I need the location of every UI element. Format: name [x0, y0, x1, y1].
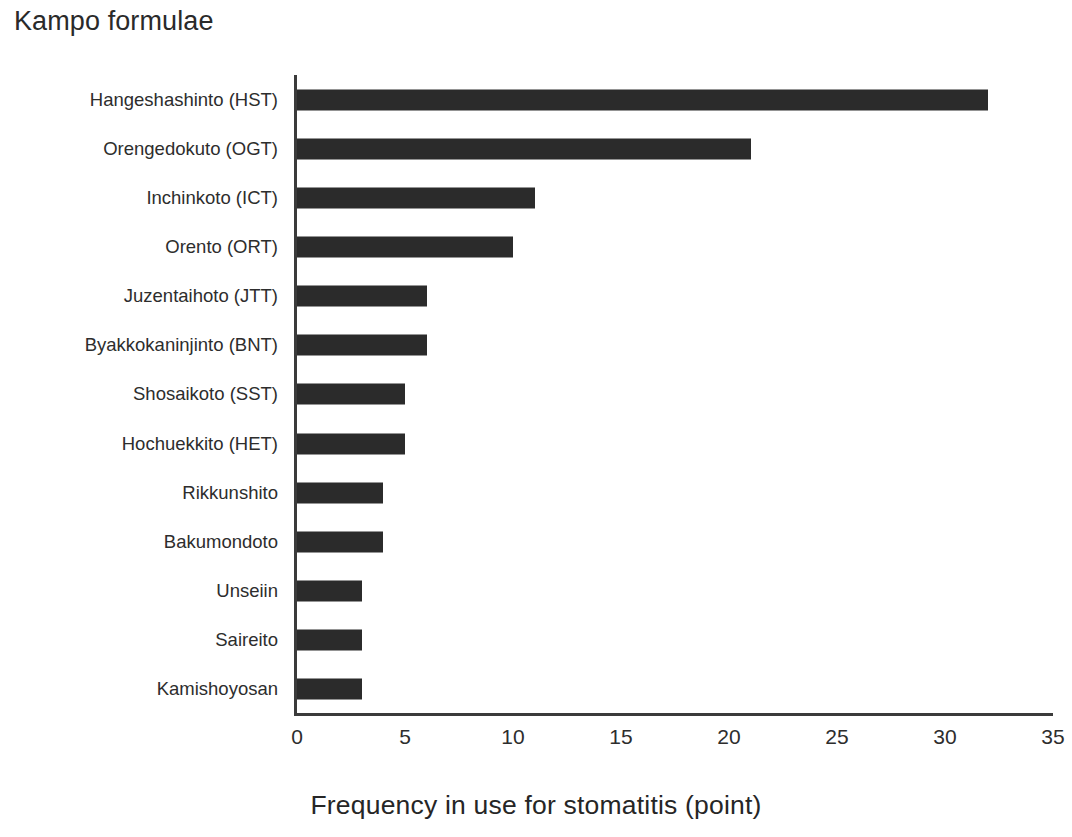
bar-row: Hochuekkito (HET) — [0, 419, 1072, 468]
bar-row: Shosaikoto (SST) — [0, 370, 1072, 419]
x-tick-label: 15 — [609, 725, 632, 749]
x-tick-label: 35 — [1041, 725, 1064, 749]
category-label: Hangeshashinto (HST) — [90, 90, 278, 109]
bar — [297, 89, 988, 110]
chart-title: Kampo formulae — [14, 6, 214, 37]
category-label: Saireito — [215, 631, 278, 650]
bar-row: Kamishoyosan — [0, 665, 1072, 714]
bar — [297, 335, 427, 356]
category-label: Inchinkoto (ICT) — [146, 189, 278, 208]
x-tick-label: 0 — [291, 725, 303, 749]
bar — [297, 581, 362, 602]
bar-row: Inchinkoto (ICT) — [0, 173, 1072, 222]
bar — [297, 384, 405, 405]
bar-row: Unseiin — [0, 567, 1072, 616]
bar — [297, 679, 362, 700]
category-label: Byakkokaninjinto (BNT) — [85, 336, 278, 355]
x-tick-label: 20 — [717, 725, 740, 749]
category-label: Hochuekkito (HET) — [122, 434, 278, 453]
bar-row: Bakumondoto — [0, 517, 1072, 566]
bar — [297, 138, 751, 159]
bar-row: Byakkokaninjinto (BNT) — [0, 321, 1072, 370]
category-label: Unseiin — [216, 582, 278, 601]
bar — [297, 187, 535, 208]
bar-row: Juzentaihoto (JTT) — [0, 272, 1072, 321]
bar-row: Rikkunshito — [0, 468, 1072, 517]
bar-row: Orento (ORT) — [0, 222, 1072, 271]
bar-row: Saireito — [0, 616, 1072, 665]
bar-chart: Kampo formulae Hangeshashinto (HST)Oreng… — [0, 0, 1072, 837]
category-label: Shosaikoto (SST) — [133, 385, 278, 404]
category-label: Kamishoyosan — [157, 680, 278, 699]
bar-row: Hangeshashinto (HST) — [0, 75, 1072, 124]
bar — [297, 482, 383, 503]
x-tick-label: 25 — [825, 725, 848, 749]
category-label: Orento (ORT) — [165, 238, 278, 257]
bar — [297, 433, 405, 454]
category-label: Rikkunshito — [182, 484, 278, 503]
category-label: Bakumondoto — [164, 533, 278, 552]
x-tick-label: 5 — [399, 725, 411, 749]
category-label: Orengedokuto (OGT) — [103, 139, 278, 158]
bar — [297, 531, 383, 552]
bar — [297, 286, 427, 307]
x-axis-title: Frequency in use for stomatitis (point) — [0, 790, 1072, 821]
bar — [297, 237, 513, 258]
category-label: Juzentaihoto (JTT) — [124, 287, 278, 306]
bar — [297, 630, 362, 651]
bar-row: Orengedokuto (OGT) — [0, 124, 1072, 173]
x-tick-label: 10 — [501, 725, 524, 749]
x-tick-label: 30 — [933, 725, 956, 749]
